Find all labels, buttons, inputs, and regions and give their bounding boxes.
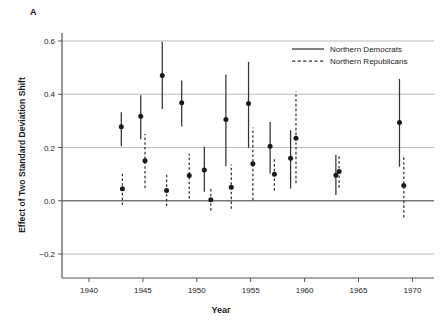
data-point: [119, 124, 124, 129]
data-point: [202, 167, 207, 172]
x-tick-label: 1965: [350, 286, 368, 295]
y-tick-label: 0.0: [44, 197, 56, 206]
y-tick-label: 0.4: [44, 90, 56, 99]
x-axis-ticks: 1940194519501955196019651970: [80, 278, 422, 295]
data-point: [138, 114, 143, 119]
data-point: [143, 158, 148, 163]
data-point: [187, 173, 192, 178]
data-series-layer: [119, 42, 407, 218]
x-tick-label: 1960: [296, 286, 314, 295]
data-point: [293, 136, 298, 141]
data-point: [288, 156, 293, 161]
y-tick-label: 0.6: [44, 37, 56, 46]
data-point: [272, 172, 277, 177]
data-point: [120, 186, 125, 191]
x-axis-title: Year: [0, 305, 442, 315]
y-axis-title: Effect of Two Standard Deviation Shift: [17, 50, 27, 260]
scatter-plot-canvas: −0.20.00.20.40.6 19401945195019551960196…: [0, 0, 442, 324]
x-tick-label: 1945: [134, 286, 152, 295]
data-point: [397, 120, 402, 125]
data-point: [250, 161, 255, 166]
data-point: [223, 117, 228, 122]
series-republicans: [120, 92, 406, 218]
y-tick-label: −0.2: [39, 250, 55, 259]
x-tick-label: 1940: [80, 286, 98, 295]
x-tick-label: 1955: [242, 286, 260, 295]
chart-legend: Northern DemocratsNorthern Republicans: [292, 45, 407, 66]
data-point: [160, 73, 165, 78]
figure-panel-a: A Effect of Two Standard Deviation Shift…: [0, 0, 442, 324]
data-point: [208, 197, 213, 202]
legend-label-republicans: Northern Republicans: [330, 57, 407, 66]
y-axis-ticks: −0.20.00.20.40.6: [39, 37, 62, 259]
data-point: [164, 188, 169, 193]
data-point: [246, 101, 251, 106]
data-point: [179, 100, 184, 105]
y-tick-label: 0.2: [44, 144, 56, 153]
x-tick-label: 1950: [188, 286, 206, 295]
data-point: [401, 183, 406, 188]
x-tick-label: 1970: [404, 286, 422, 295]
data-point: [268, 144, 273, 149]
data-point: [337, 169, 342, 174]
data-point: [229, 185, 234, 190]
legend-label-democrats: Northern Democrats: [330, 45, 402, 54]
panel-label: A: [30, 7, 37, 17]
